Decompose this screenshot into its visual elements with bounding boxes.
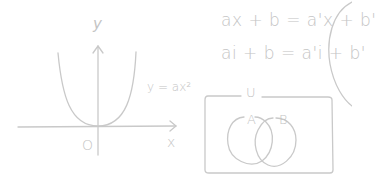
set-b-label: B <box>279 113 288 126</box>
set-b-circle <box>255 118 296 166</box>
curve-equation-label: y = ax² <box>147 81 191 93</box>
equation-line-2: ai + b = a'i + b' <box>221 45 366 62</box>
parabola-curve <box>58 52 136 126</box>
universe-label: U <box>246 86 256 99</box>
set-a-label: A <box>247 113 256 126</box>
x-axis-label: x <box>167 135 175 149</box>
y-axis-label: y <box>93 17 102 32</box>
equation-line-1: ax + b = a'x + b' <box>221 12 377 29</box>
universe-box <box>205 96 333 173</box>
origin-label: O <box>82 138 93 152</box>
